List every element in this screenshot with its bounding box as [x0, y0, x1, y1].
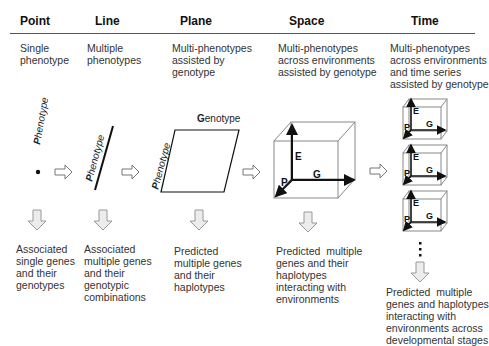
- right-arrow-icons: [55, 164, 387, 179]
- svg-text:P: P: [404, 122, 410, 132]
- svg-text:Phenotype: Phenotype: [149, 141, 172, 190]
- outcome-plane: Predicted multiple genes and their haplo…: [174, 245, 242, 293]
- outcome-point: Associated single genes and their genoty…: [16, 243, 75, 291]
- line-diagram: Phenotype: [83, 126, 113, 190]
- outcome-space: Predicted multiple genes and their haplo…: [276, 245, 362, 305]
- svg-text:E: E: [413, 106, 419, 116]
- point-dot-icon: [36, 170, 40, 174]
- point-diagram: Phenotype: [31, 96, 50, 174]
- plane-diagram: Genotype Phenotype: [149, 113, 240, 192]
- svg-text:P: P: [281, 177, 288, 188]
- outcome-time: Predicted multiple genes and haplotypes …: [386, 286, 489, 346]
- svg-text:E: E: [295, 151, 302, 162]
- svg-text:Phenotype: Phenotype: [83, 133, 106, 182]
- ellipsis-dots-icon: [419, 242, 422, 257]
- outcome-line: Associated multiple genes and their geno…: [84, 243, 152, 303]
- svg-text:G: G: [426, 119, 433, 129]
- svg-text:G: G: [313, 169, 321, 180]
- space-cube-diagram: E G P: [274, 122, 355, 198]
- svg-text:Genotype: Genotype: [197, 113, 241, 124]
- svg-text:Phenotype: Phenotype: [31, 96, 50, 145]
- time-cubes-diagram: E G P: [403, 99, 447, 257]
